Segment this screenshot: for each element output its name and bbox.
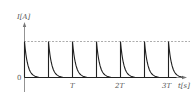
current-curve — [25, 42, 183, 78]
x-tick-T: T — [70, 82, 76, 90]
x-tick-3T: 3T — [162, 82, 172, 90]
x-axis-label: t[s] — [178, 82, 190, 90]
x-axis-arrow-icon — [182, 76, 187, 79]
chart: I[A] 0 T 2T 3T t[s] — [0, 0, 196, 104]
spike-path — [25, 42, 183, 78]
y-axis-arrow-icon — [23, 22, 26, 27]
x-tick-2T: 2T — [114, 82, 125, 90]
y-axis-label: I[A] — [16, 13, 31, 21]
origin-label: 0 — [17, 74, 21, 82]
